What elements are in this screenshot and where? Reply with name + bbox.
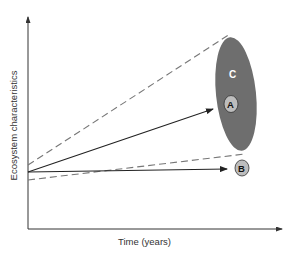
region-c-ellipse: [210, 35, 262, 153]
label-b: B: [238, 163, 245, 174]
lower-dashed-line: [28, 154, 245, 180]
y-axis-label: Ecosystem characteristics: [8, 71, 19, 181]
label-a: A: [227, 99, 234, 110]
label-c: C: [229, 69, 236, 80]
upper-dashed-line: [28, 34, 230, 165]
arrow-to-a: [28, 109, 213, 172]
ecosystem-trajectory-diagram: C A B: [0, 0, 296, 256]
arrow-to-b: [28, 169, 227, 172]
x-axis-label: Time (years): [118, 236, 171, 247]
